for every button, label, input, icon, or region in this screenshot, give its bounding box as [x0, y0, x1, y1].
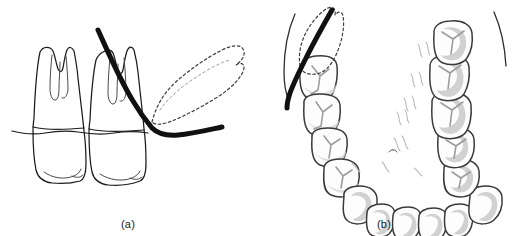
panel-b-caption: (b)	[256, 218, 512, 230]
figure-root: (a)	[0, 0, 512, 236]
flap-outer-dash	[152, 46, 244, 125]
arch-right-quadrant	[430, 21, 502, 224]
molar-second-cej	[89, 129, 144, 131]
panel-b-illustration	[256, 0, 512, 236]
molar-first-pulp-distal	[62, 56, 68, 98]
flap-inner-dash	[160, 60, 230, 110]
lingual-center-mark	[389, 150, 397, 152]
panel-a: (a)	[0, 0, 256, 236]
panel-b: (b)	[256, 0, 512, 236]
reflected-flap-dashed-outline	[152, 46, 244, 125]
molar-second-cusp-detail	[100, 171, 140, 180]
molar-first-cej	[33, 127, 84, 129]
molar-first-cusp-detail	[44, 169, 81, 178]
molar-first-pulp	[50, 55, 60, 100]
instrument-blade-curve	[98, 30, 222, 135]
panel-a-illustration	[0, 0, 256, 236]
molar-first-cusp-detail-2	[72, 175, 83, 177]
lingual-tissue-marks	[352, 42, 430, 176]
tooth-right-molar-3	[434, 21, 472, 65]
molar-first	[33, 47, 86, 183]
vestibule-line-right	[494, 12, 506, 66]
panel-a-caption: (a)	[0, 218, 256, 230]
